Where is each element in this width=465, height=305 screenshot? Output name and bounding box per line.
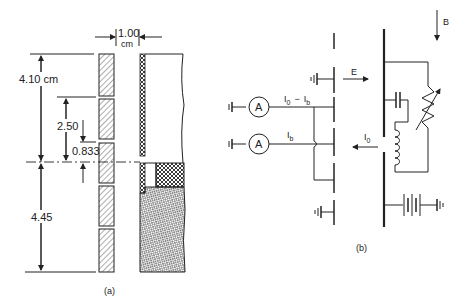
plate-segment — [99, 229, 114, 272]
current-lower-label: Ib — [287, 130, 294, 142]
current-upper-label: I0−Ib — [284, 94, 310, 106]
target-body — [140, 54, 185, 272]
ground-lower — [315, 206, 334, 218]
plate-segment — [99, 54, 114, 96]
slot-pitch-label: 2.50 — [57, 120, 78, 132]
variable-resistor — [395, 86, 434, 172]
plate-segment — [99, 99, 114, 139]
plate-segment — [99, 186, 114, 226]
ammeter-lower-label: A — [255, 138, 263, 150]
b-field-label: B — [443, 17, 449, 27]
heater-circuit — [384, 62, 440, 172]
gap-width-value: 1.00 — [118, 27, 139, 39]
crosshatched-insert — [156, 163, 184, 187]
ammeter-upper-branch: A — [229, 97, 334, 180]
top-height-label: 4.10 cm — [19, 73, 58, 85]
ammeter-upper-label: A — [255, 101, 263, 113]
plate-segment — [99, 143, 114, 183]
battery-ground — [384, 194, 443, 216]
ammeter-lower-branch: A — [229, 134, 334, 154]
panel-a: 1.00 cm 4.10 cm 2.50 0.833 — [18, 27, 185, 296]
e-field-label: E — [351, 67, 357, 77]
ground-upper — [311, 73, 334, 85]
lower-hatched-region — [140, 187, 185, 272]
slotted-plate — [99, 54, 114, 272]
bottom-height-label: 4.45 — [31, 211, 52, 223]
return-current-label: I0 — [364, 132, 371, 144]
panel-b-caption: (b) — [356, 243, 367, 253]
panel-a-caption: (a) — [104, 286, 115, 296]
slot-offset-label: 0.833 — [72, 145, 100, 157]
inductor-coil — [395, 130, 400, 165]
panel-b: E A I0−Ib A Ib — [229, 10, 449, 253]
figure-canvas: 1.00 cm 4.10 cm 2.50 0.833 — [0, 0, 465, 305]
dim-gap-width: 1.00 cm — [95, 27, 162, 49]
gap-width-unit: cm — [121, 39, 133, 49]
dim-bottom-height: 4.45 — [25, 164, 96, 272]
